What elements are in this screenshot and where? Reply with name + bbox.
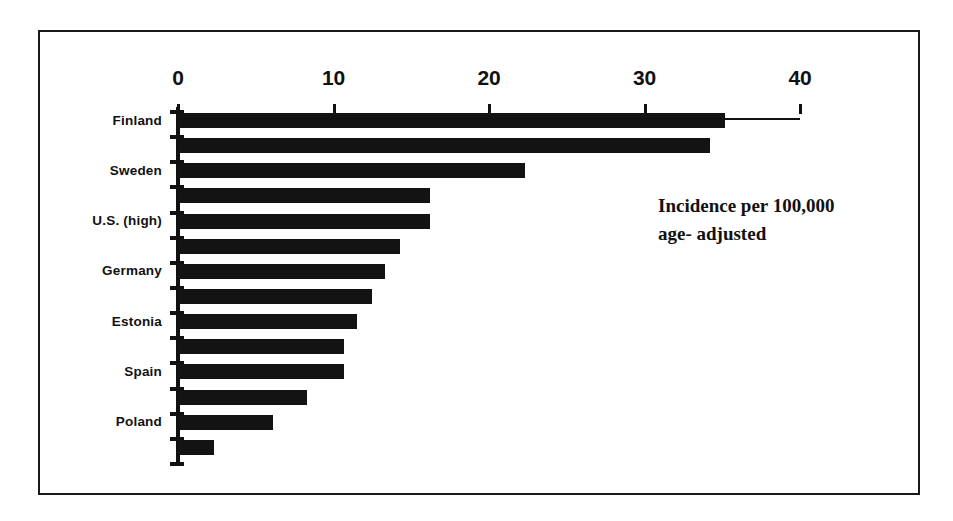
bar bbox=[178, 264, 385, 279]
bar bbox=[178, 314, 357, 329]
x-axis-tick-label: 30 bbox=[633, 66, 656, 90]
bar bbox=[178, 138, 710, 153]
y-axis-category-label: U.S. (high) bbox=[92, 213, 162, 228]
annotation-line-2: age- adjusted bbox=[658, 220, 834, 248]
plot-area bbox=[178, 110, 800, 462]
y-axis-category-label: Estonia bbox=[112, 314, 162, 329]
x-axis-tick-label: 20 bbox=[478, 66, 501, 90]
annotation-line-1: Incidence per 100,000 bbox=[658, 192, 834, 220]
chart-annotation: Incidence per 100,000 age- adjusted bbox=[658, 192, 834, 247]
y-axis-category-labels: FinlandSwedenU.S. (high)GermanyEstoniaSp… bbox=[0, 0, 170, 521]
y-axis-tick bbox=[170, 462, 184, 466]
bar bbox=[178, 339, 344, 354]
figure: 010203040 FinlandSwedenU.S. (high)German… bbox=[0, 0, 953, 521]
y-axis-category-label: Poland bbox=[116, 414, 162, 429]
x-axis-tick-label: 10 bbox=[322, 66, 345, 90]
y-axis-category-label: Sweden bbox=[110, 163, 162, 178]
bar bbox=[178, 364, 344, 379]
bar bbox=[178, 113, 725, 128]
x-axis-tick-label: 40 bbox=[789, 66, 812, 90]
bar bbox=[178, 239, 400, 254]
x-axis-tick-label: 0 bbox=[172, 66, 183, 90]
bar bbox=[178, 188, 430, 203]
x-axis-tick-labels: 010203040 bbox=[178, 66, 800, 96]
bar bbox=[178, 163, 525, 178]
y-axis-category-label: Spain bbox=[124, 364, 162, 379]
bar bbox=[178, 289, 372, 304]
bar bbox=[178, 415, 273, 430]
bar bbox=[178, 440, 214, 455]
y-axis-category-label: Germany bbox=[102, 263, 162, 278]
x-axis-line bbox=[178, 118, 800, 120]
bar bbox=[178, 214, 430, 229]
y-axis-category-label: Finland bbox=[113, 113, 162, 128]
bar bbox=[178, 390, 307, 405]
